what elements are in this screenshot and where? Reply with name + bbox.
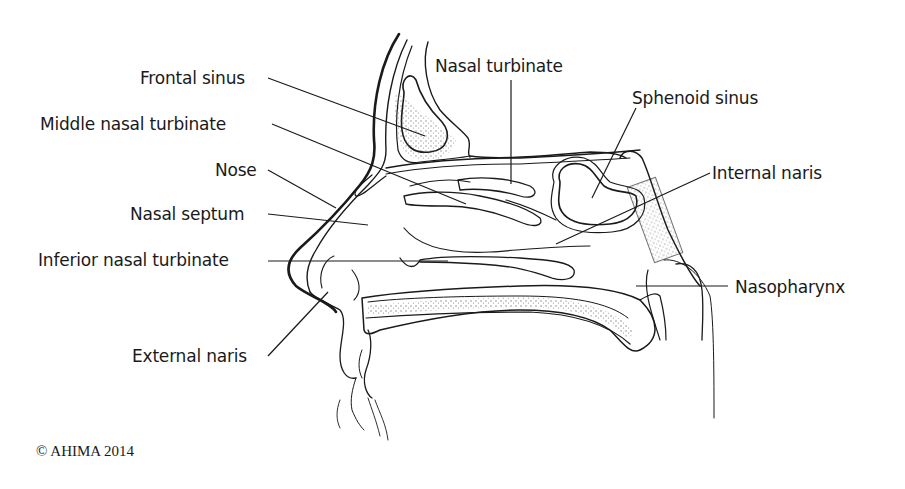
leader-external-naris <box>268 292 328 356</box>
middle-turbinate-shape <box>404 192 541 225</box>
label-nose: Nose <box>215 160 257 180</box>
nasal-cavity-diagram: Frontal sinus Middle nasal turbinate Nos… <box>0 0 905 489</box>
label-external-naris: External naris <box>132 346 247 366</box>
sphenoid-sinus-shape <box>559 164 637 225</box>
label-inferior-nasal-turbinate: Inferior nasal turbinate <box>38 250 229 270</box>
nasopharynx-wall <box>676 264 703 340</box>
inferior-turbinate-shape <box>400 257 574 280</box>
label-internal-naris: Internal naris <box>712 163 822 183</box>
label-middle-nasal-turbinate: Middle nasal turbinate <box>40 114 226 134</box>
label-nasal-turbinate: Nasal turbinate <box>435 56 563 76</box>
nose-profile-inner <box>307 40 407 292</box>
leader-nose <box>268 170 336 208</box>
label-nasopharynx: Nasopharynx <box>735 277 845 297</box>
nose-profile-outer <box>289 34 399 312</box>
copyright-notice: © AHIMA 2014 <box>36 443 134 460</box>
label-nasal-septum: Nasal septum <box>130 204 244 224</box>
leader-internal-naris <box>556 173 710 244</box>
leader-nasal-septum <box>268 214 368 225</box>
label-sphenoid-sinus: Sphenoid sinus <box>632 88 758 108</box>
label-frontal-sinus: Frontal sinus <box>140 68 245 88</box>
